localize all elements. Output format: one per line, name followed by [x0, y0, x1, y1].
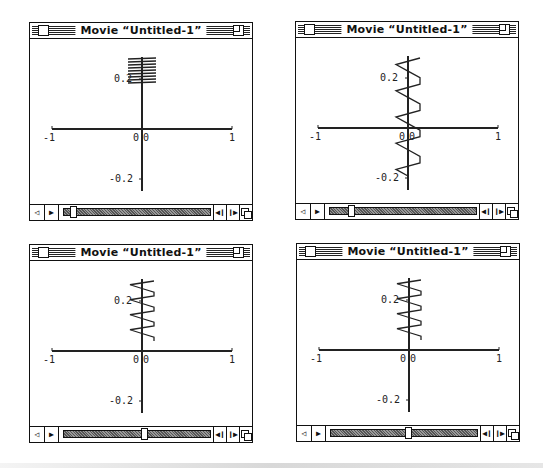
title-bar[interactable]: Movie “Untitled-1”: [30, 23, 252, 39]
x-tick-label-0: 0: [399, 132, 405, 142]
window-title: Movie “Untitled-1”: [75, 23, 206, 38]
y-origin-label: 0: [143, 133, 149, 143]
step-back-button[interactable]: ◀❙: [213, 205, 227, 220]
play-button[interactable]: ▶: [45, 427, 59, 442]
play-button[interactable]: ▶: [45, 205, 59, 220]
x-tick-label-neg1: -1: [43, 133, 55, 143]
slider-thumb[interactable]: [348, 205, 355, 217]
x-tick-label-1: 1: [229, 133, 235, 143]
window-title: Movie “Untitled-1”: [75, 245, 206, 260]
close-box-icon[interactable]: [305, 246, 316, 257]
movie-frame-plot: -10010.2-0.2: [30, 261, 252, 427]
x-tick-label-1: 1: [495, 132, 501, 142]
slider-thumb[interactable]: [70, 206, 77, 218]
step-back-button[interactable]: ◀❙: [213, 427, 227, 442]
y-tick-label-0.2: 0.2: [380, 73, 398, 83]
y-origin-label: 0: [409, 132, 415, 142]
speaker-icon[interactable]: ◁: [297, 426, 312, 441]
y-tick-label-neg0.2: -0.2: [375, 173, 399, 183]
movie-controller: ◁ ▶ ◀❙ ❙▶: [297, 425, 519, 441]
window-title: Movie “Untitled-1”: [341, 22, 472, 37]
movie-window-top-right[interactable]: Movie “Untitled-1” -10010.2-0.2 ◁ ▶ ◀❙ ❙…: [295, 21, 519, 220]
speaker-icon[interactable]: ◁: [296, 204, 311, 219]
size-box-icon[interactable]: [240, 427, 252, 442]
x-tick-label-neg1: -1: [310, 354, 322, 364]
y-tick-label-neg0.2: -0.2: [109, 396, 133, 406]
time-slider[interactable]: [63, 208, 211, 216]
play-button[interactable]: ▶: [311, 204, 325, 219]
close-box-icon[interactable]: [38, 25, 49, 36]
title-bar[interactable]: Movie “Untitled-1”: [30, 245, 252, 261]
movie-controller: ◁ ▶ ◀❙ ❙▶: [296, 203, 518, 219]
size-box-icon[interactable]: [240, 205, 252, 220]
x-tick-label-1: 1: [229, 355, 235, 365]
screen-bottom-edge: [0, 463, 543, 468]
slider-thumb[interactable]: [405, 427, 412, 439]
zoom-box-icon[interactable]: [500, 246, 511, 257]
time-slider[interactable]: [329, 207, 477, 215]
zoom-box-icon[interactable]: [233, 247, 244, 258]
title-bar[interactable]: Movie “Untitled-1”: [296, 22, 518, 38]
y-tick-label-0.2: 0.2: [114, 296, 132, 306]
title-bar[interactable]: Movie “Untitled-1”: [297, 244, 519, 260]
movie-controller: ◁ ▶ ◀❙ ❙▶: [30, 204, 252, 220]
zoom-box-icon[interactable]: [233, 25, 244, 36]
x-tick-label-1: 1: [496, 354, 502, 364]
y-origin-label: 0: [410, 354, 416, 364]
time-slider[interactable]: [330, 429, 478, 437]
movie-controller: ◁ ▶ ◀❙ ❙▶: [30, 426, 252, 442]
speaker-icon[interactable]: ◁: [30, 205, 45, 220]
step-forward-button[interactable]: ❙▶: [227, 205, 240, 220]
y-origin-label: 0: [143, 355, 149, 365]
y-tick-label-neg0.2: -0.2: [376, 395, 400, 405]
step-back-button[interactable]: ◀❙: [479, 204, 493, 219]
step-forward-button[interactable]: ❙▶: [227, 427, 240, 442]
zoom-box-icon[interactable]: [499, 24, 510, 35]
x-tick-label-neg1: -1: [309, 132, 321, 142]
x-tick-label-0: 0: [133, 355, 139, 365]
speaker-icon[interactable]: ◁: [30, 427, 45, 442]
window-title: Movie “Untitled-1”: [342, 244, 473, 259]
y-tick-label-0.2: 0.2: [114, 74, 132, 84]
y-tick-label-0.2: 0.2: [381, 295, 399, 305]
movie-frame-plot: -10010.2-0.2: [30, 39, 252, 205]
movie-window-bottom-left[interactable]: Movie “Untitled-1” -10010.2-0.2 ◁ ▶ ◀❙ ❙…: [29, 244, 253, 443]
movie-window-top-left[interactable]: Movie “Untitled-1” -10010.2-0.2 ◁ ▶ ◀❙ ❙…: [29, 22, 253, 221]
movie-frame-plot: -10010.2-0.2: [296, 38, 518, 204]
slider-thumb[interactable]: [141, 428, 148, 440]
x-tick-label-neg1: -1: [43, 355, 55, 365]
movie-frame-plot: -10010.2-0.2: [297, 260, 519, 426]
close-box-icon[interactable]: [38, 247, 49, 258]
time-slider[interactable]: [63, 430, 211, 438]
y-tick-label-neg0.2: -0.2: [109, 174, 133, 184]
play-button[interactable]: ▶: [312, 426, 326, 441]
x-tick-label-0: 0: [133, 133, 139, 143]
size-box-icon[interactable]: [506, 204, 518, 219]
size-box-icon[interactable]: [507, 426, 519, 441]
step-back-button[interactable]: ◀❙: [480, 426, 494, 441]
x-tick-label-0: 0: [400, 354, 406, 364]
step-forward-button[interactable]: ❙▶: [494, 426, 507, 441]
step-forward-button[interactable]: ❙▶: [493, 204, 506, 219]
close-box-icon[interactable]: [304, 24, 315, 35]
movie-window-bottom-right[interactable]: Movie “Untitled-1” -10010.2-0.2 ◁ ▶ ◀❙ ❙…: [296, 243, 520, 442]
